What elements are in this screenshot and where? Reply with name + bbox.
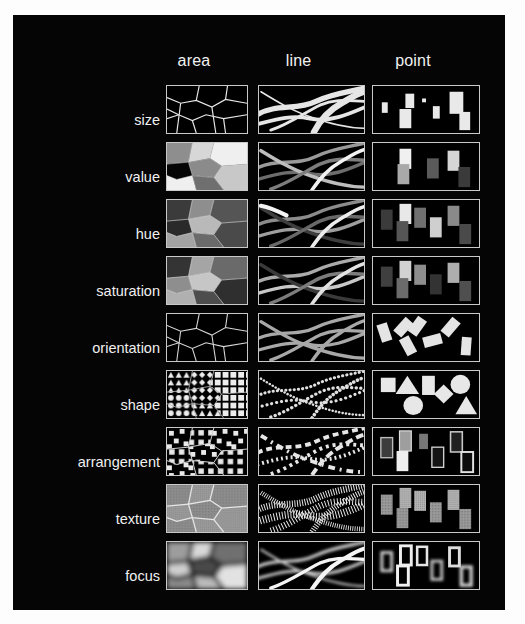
cell-hue-area [166, 199, 248, 248]
cell-size-area [166, 85, 248, 134]
cell-texture-area [166, 484, 248, 533]
cell-orientation-point [372, 313, 480, 362]
cell-hue-point [372, 199, 480, 248]
row-label-focus: focus [13, 568, 160, 584]
cell-texture-point [372, 484, 480, 533]
row-label-saturation: saturation [13, 283, 160, 299]
row-label-value: value [13, 169, 160, 185]
figure-board: area line point size value hue saturatio… [13, 15, 505, 610]
cell-value-line [258, 142, 365, 191]
cell-value-area [166, 142, 248, 191]
cell-shape-line [258, 370, 365, 419]
cell-size-line [258, 85, 365, 134]
cell-hue-line [258, 199, 365, 248]
cell-shape-area [166, 370, 248, 419]
row-label-size: size [13, 112, 160, 128]
cell-arrangement-point [372, 427, 480, 476]
cell-orientation-line [258, 313, 365, 362]
cell-saturation-area [166, 256, 248, 305]
cell-focus-line [258, 541, 365, 590]
column-header-point: point [359, 52, 467, 70]
row-label-shape: shape [13, 397, 160, 413]
column-header-area: area [153, 52, 235, 70]
row-label-arrangement: arrangement [13, 454, 160, 470]
cell-value-point [372, 142, 480, 191]
cell-arrangement-area [166, 427, 248, 476]
cell-focus-area [166, 541, 248, 590]
row-label-texture: texture [13, 511, 160, 527]
cell-saturation-line [258, 256, 365, 305]
row-label-orientation: orientation [13, 340, 160, 356]
column-header-line: line [245, 52, 352, 70]
cell-saturation-point [372, 256, 480, 305]
cell-shape-point [372, 370, 480, 419]
cell-orientation-area [166, 313, 248, 362]
cell-size-point [372, 85, 480, 134]
figure-root: area line point size value hue saturatio… [0, 0, 525, 624]
row-label-hue: hue [13, 226, 160, 242]
cell-texture-line [258, 484, 365, 533]
cell-focus-point [372, 541, 480, 590]
cell-arrangement-line [258, 427, 365, 476]
